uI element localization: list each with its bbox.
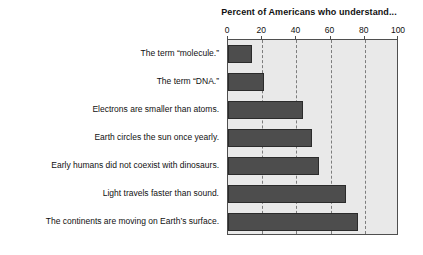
category-label: Electrons are smaller than atoms. xyxy=(92,104,219,114)
bar xyxy=(228,213,358,231)
x-tick-label-80: 80 xyxy=(359,25,368,35)
category-label: The term “DNA.” xyxy=(157,76,219,86)
x-tick-label-40: 40 xyxy=(291,25,300,35)
bar xyxy=(228,101,303,119)
bars-layer xyxy=(228,40,397,234)
category-label: The continents are moving on Earth’s sur… xyxy=(46,216,219,226)
x-tick-label-20: 20 xyxy=(256,25,265,35)
chart-title: Percent of Americans who understand... xyxy=(198,7,420,17)
x-tick-label-0: 0 xyxy=(225,25,230,35)
chart-figure: Percent of Americans who understand... 0… xyxy=(0,0,423,255)
x-tick-label-60: 60 xyxy=(325,25,334,35)
bar xyxy=(228,157,319,175)
plot-area xyxy=(227,39,398,235)
category-label: Early humans did not coexist with dinosa… xyxy=(51,160,219,170)
category-axis-labels: The term “molecule.”The term “DNA.”Elect… xyxy=(0,39,223,235)
category-label: The term “molecule.” xyxy=(141,48,219,58)
bar xyxy=(228,45,252,63)
category-label: Earth circles the sun once yearly. xyxy=(94,132,219,142)
bar xyxy=(228,73,264,91)
category-label: Light travels faster than sound. xyxy=(103,188,219,198)
bar xyxy=(228,185,346,203)
x-tick-label-100: 100 xyxy=(391,25,405,35)
bar xyxy=(228,129,312,147)
